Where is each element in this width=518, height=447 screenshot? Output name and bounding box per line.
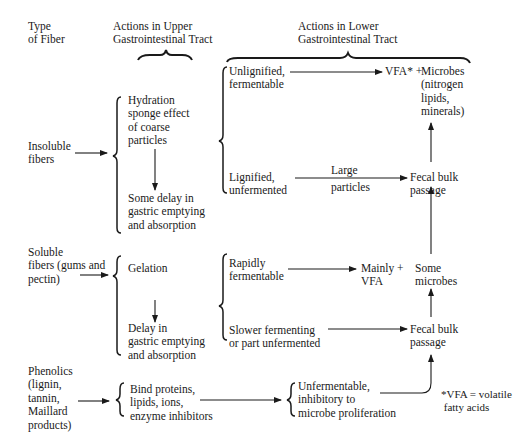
lower-large: Large bbox=[331, 164, 358, 177]
lower-particles: particles bbox=[331, 181, 370, 194]
lower-microbes: Microbes (nitrogen lipids, minerals) bbox=[421, 65, 464, 119]
lower-slower: Slower fermenting or part unfermented bbox=[229, 324, 320, 351]
soluble-upper-brace bbox=[113, 256, 121, 355]
lower-lignified: Lignified, unfermented bbox=[229, 171, 287, 198]
fiber-insoluble: Insoluble fibers bbox=[28, 140, 71, 167]
fiber-phenolics: Phenolics (lignin, tannin, Maillard prod… bbox=[28, 365, 73, 432]
upper-gelation: Gelation bbox=[128, 262, 168, 275]
phenolics-lower-brace bbox=[287, 383, 295, 416]
soluble-lower-brace bbox=[219, 254, 227, 340]
lower-fecal-bulk-2: Fecal bulk passage bbox=[410, 323, 458, 350]
header-lower-gi: Actions in Lower Gastrointestinal Tract bbox=[298, 20, 397, 47]
header-type-of-fiber: Type of Fiber bbox=[28, 20, 65, 47]
insoluble-lower-brace bbox=[219, 67, 227, 193]
upper-delay: Delay in gastric emptying and absorption bbox=[128, 322, 205, 362]
upper-bind-proteins: Bind proteins, lipids, ions, enzyme inhi… bbox=[130, 383, 213, 423]
lower-unfermentable: Unfermentable, inhibitory to microbe pro… bbox=[298, 380, 396, 420]
upper-hydration: Hydration sponge effect of coarse partic… bbox=[128, 94, 189, 148]
upper-header-brace bbox=[138, 50, 192, 60]
lower-vfa-plus: VFA* + bbox=[385, 65, 422, 78]
fiber-soluble: Soluble fibers (gums and pectin) bbox=[28, 246, 105, 286]
footnote-vfa: *VFA = volatile fatty acids bbox=[441, 388, 512, 415]
lower-mainly-vfa: Mainly + VFA bbox=[361, 262, 404, 289]
phenolics-upper-brace bbox=[116, 383, 124, 416]
insoluble-upper-brace bbox=[113, 97, 121, 233]
lower-rapidly: Rapidly fermentable bbox=[229, 257, 284, 284]
upper-some-delay: Some delay in gastric emptying and absor… bbox=[128, 192, 205, 232]
lower-header-brace bbox=[227, 53, 470, 63]
lower-unlignified: Unlignified, fermentable bbox=[229, 65, 285, 92]
header-upper-gi: Actions in Upper Gastrointestinal Tract bbox=[113, 20, 212, 47]
lower-some-microbes: Some microbes bbox=[415, 262, 457, 289]
lower-fecal-bulk-1: Fecal bulk passage bbox=[410, 171, 458, 198]
